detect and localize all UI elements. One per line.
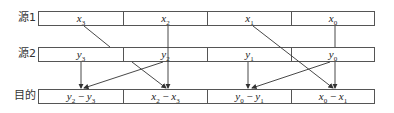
- arrow-x3-to-dest1: [132, 62, 166, 88]
- line-x3-to-y2: [84, 26, 110, 47]
- dataflow-arrows: [0, 0, 394, 113]
- arrow-y2-to-dest0: [84, 62, 163, 88]
- arrow-y0-to-dest2: [252, 62, 330, 88]
- arrow-x1-to-dest3: [253, 26, 333, 88]
